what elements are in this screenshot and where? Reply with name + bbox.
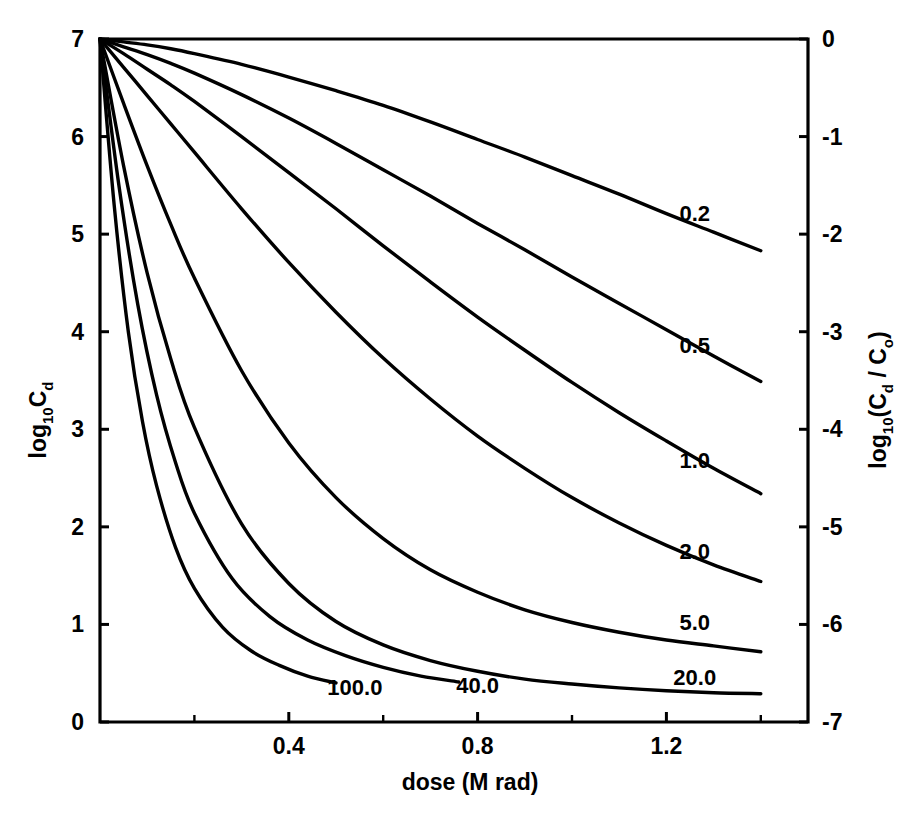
y-axis-title-right-open-numerator: (C <box>865 393 891 417</box>
right-axis-tick-labels: 0-1-2-3-4-5-6-7 <box>822 26 843 735</box>
right-tick-label--2: -2 <box>822 221 842 247</box>
y-axis-title-right-subscript: 10 <box>879 417 896 434</box>
curve-label-0.5: 0.5 <box>679 333 710 358</box>
curve-series-labels: 0.20.51.02.05.020.040.0100.0 <box>327 201 716 700</box>
y-axis-title-left-text: log10Cd <box>25 382 56 459</box>
left-tick-label-4: 4 <box>71 319 84 345</box>
right-tick-label--5: -5 <box>822 514 843 540</box>
curve-label-100.0: 100.0 <box>327 675 382 700</box>
y-axis-title-right-text: log10(Cd / Co) <box>865 331 896 468</box>
y-axis-title-left-variable-subscript: d <box>39 382 56 391</box>
right-tick-label--4: -4 <box>822 416 843 442</box>
right-tick-label--6: -6 <box>822 611 842 637</box>
y-axis-title-right-denominator-subscript: o <box>879 339 896 348</box>
curve-1.0 <box>100 39 761 494</box>
x-axis-title: dose (M rad) <box>402 769 539 795</box>
curve-0.2 <box>100 39 761 251</box>
left-tick-label-1: 1 <box>71 611 84 637</box>
y-axis-title-left-main: log <box>25 424 51 459</box>
curve-label-1.0: 1.0 <box>679 448 710 473</box>
right-tick-label-0: 0 <box>822 26 835 52</box>
y-axis-title-right-close-paren: ) <box>865 331 891 339</box>
y-axis-title-right: log10(Cd / Co) <box>865 331 896 468</box>
curve-label-20.0: 20.0 <box>673 665 716 690</box>
left-tick-label-2: 2 <box>71 514 84 540</box>
left-tick-label-0: 0 <box>71 709 84 735</box>
y-axis-title-left: log10Cd <box>25 382 56 459</box>
curve-5.0 <box>100 39 761 652</box>
left-tick-label-7: 7 <box>71 26 84 52</box>
bottom-axis-tick-labels: 0.40.81.2 <box>273 733 683 759</box>
right-tick-label--7: -7 <box>822 709 842 735</box>
y-axis-title-left-subscript: 10 <box>39 407 56 424</box>
bottom-tick-label-1.2: 1.2 <box>650 733 682 759</box>
curve-label-2.0: 2.0 <box>679 539 710 564</box>
chart-svg: 01234567 0-1-2-3-4-5-6-7 0.40.81.2 0.20.… <box>0 0 916 827</box>
y-axis-title-right-main: log <box>865 434 891 469</box>
left-tick-label-5: 5 <box>71 221 84 247</box>
left-tick-label-3: 3 <box>71 416 84 442</box>
curve-label-5.0: 5.0 <box>679 610 710 635</box>
y-axis-title-right-numerator-subscript: d <box>879 384 896 393</box>
curve-40.0 <box>100 39 459 682</box>
left-tick-label-6: 6 <box>71 124 84 150</box>
right-tick-label--3: -3 <box>822 319 842 345</box>
bottom-tick-label-0.8: 0.8 <box>462 733 494 759</box>
curve-label-40.0: 40.0 <box>456 673 499 698</box>
y-axis-title-left-variable: C <box>25 391 51 408</box>
bottom-tick-label-0.4: 0.4 <box>273 733 305 759</box>
data-curves <box>100 39 761 694</box>
right-tick-label--1: -1 <box>822 124 843 150</box>
left-axis-tick-labels: 01234567 <box>71 26 84 735</box>
figure-container: 01234567 0-1-2-3-4-5-6-7 0.40.81.2 0.20.… <box>0 0 916 827</box>
curve-label-0.2: 0.2 <box>679 201 710 226</box>
y-axis-title-right-denominator: / C <box>865 348 891 384</box>
